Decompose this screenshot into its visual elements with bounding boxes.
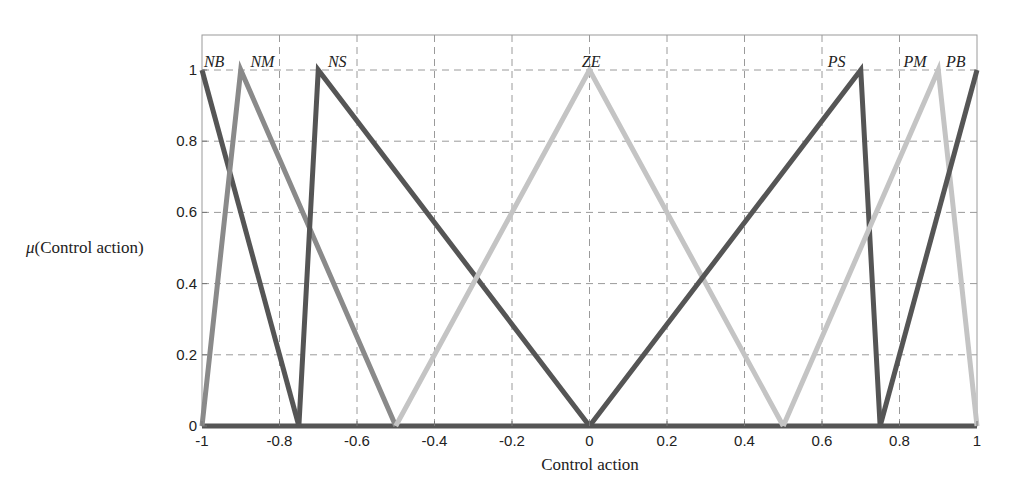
- x-tick-label: 0.6: [812, 432, 833, 449]
- mf-label-ns: NS: [327, 53, 347, 70]
- x-tick-label: 0.2: [657, 432, 678, 449]
- x-tick-label: -0.4: [422, 432, 448, 449]
- y-axis-title: μ(Control action): [25, 238, 144, 257]
- mf-label-nb: NB: [203, 53, 225, 70]
- x-tick-label: 1: [973, 432, 981, 449]
- membership-function-chart: NBNMNSZEPSPMPB -1-0.8-0.6-0.4-0.200.20.4…: [0, 0, 1014, 492]
- y-tick-label: 0.8: [176, 132, 197, 149]
- x-tick-label: 0.8: [889, 432, 910, 449]
- mf-line-pm: [783, 70, 977, 426]
- mf-line-nm: [202, 70, 396, 426]
- mf-line-ns: [299, 70, 590, 426]
- y-tick-label: 0.2: [176, 346, 197, 363]
- y-axis-title-mu: μ: [25, 238, 35, 257]
- mf-label-nm: NM: [249, 53, 276, 70]
- x-tick-label: -0.6: [344, 432, 370, 449]
- x-tick-label: 0.4: [734, 432, 755, 449]
- mf-label-ze: ZE: [582, 53, 601, 70]
- mf-line-ps: [590, 70, 881, 426]
- x-tick-label: -0.8: [267, 432, 293, 449]
- mf-line-nb: [202, 70, 299, 426]
- y-tick-label: 1: [189, 61, 197, 78]
- mf-line-pb: [880, 70, 977, 426]
- mf-label-pm: PM: [902, 53, 928, 70]
- y-tick-label: 0.4: [176, 275, 197, 292]
- x-tick-label: -1: [195, 432, 208, 449]
- x-tick-label: -0.2: [499, 432, 525, 449]
- mf-label-ps: PS: [827, 53, 846, 70]
- y-tick-label: 0: [189, 417, 197, 434]
- mf-label-pb: PB: [945, 53, 966, 70]
- x-axis-title: Control action: [541, 455, 639, 474]
- x-tick-label: 0: [585, 432, 593, 449]
- y-axis-title-text: (Control action): [35, 238, 144, 257]
- y-tick-label: 0.6: [176, 203, 197, 220]
